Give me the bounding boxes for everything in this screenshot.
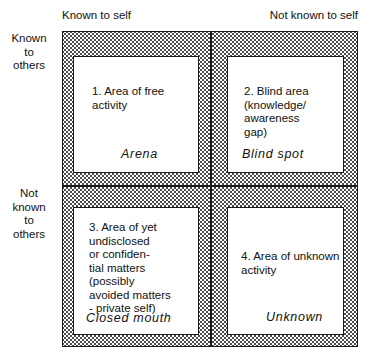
quadrant-blind-spot-description: 2. Blind area (knowledge/ awareness gap) xyxy=(244,85,309,139)
quadrant-closed-mouth-description: 3. Area of yet undisclosed or confiden- … xyxy=(89,221,171,316)
quadrant-arena-description: 1. Area of free activity xyxy=(92,85,164,112)
quadrant-blind-spot: 2. Blind area (knowledge/ awareness gap)… xyxy=(227,56,344,173)
row-header-known-to-others: Known to others xyxy=(0,32,58,73)
quadrant-unknown-description: 4. Area of unknown activity xyxy=(241,250,339,277)
quadrant-closed-mouth: 3. Area of yet undisclosed or confiden- … xyxy=(73,207,199,335)
column-header-known-to-self: Known to self xyxy=(62,9,131,22)
quadrant-unknown-term: Unknown xyxy=(266,310,323,324)
quadrant-closed-mouth-term: Closed mouth xyxy=(86,311,172,325)
divider-vertical xyxy=(210,31,212,347)
quadrant-unknown: 4. Area of unknown activity Unknown xyxy=(227,207,344,335)
quadrant-arena-term: Arena xyxy=(121,147,158,161)
column-header-not-known-to-self: Not known to self xyxy=(270,9,358,22)
row-header-not-known-to-others: Not known to others xyxy=(0,187,58,241)
quadrant-blind-spot-term: Blind spot xyxy=(242,147,304,161)
divider-horizontal xyxy=(62,185,358,187)
quadrant-arena: 1. Area of free activity Arena xyxy=(73,56,199,173)
